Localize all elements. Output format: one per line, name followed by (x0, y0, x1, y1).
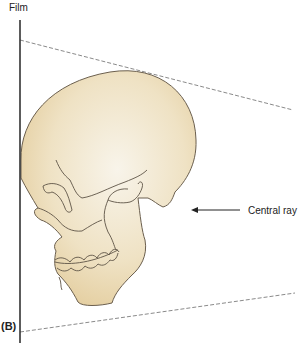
arrowhead-left-icon (191, 207, 198, 213)
central-ray-label: Central ray (248, 205, 297, 216)
panel-label: (B) (1, 320, 16, 332)
diagram-canvas (0, 0, 302, 345)
film-label: Film (9, 2, 28, 13)
skull-outline (21, 71, 196, 306)
beam-lower-edge (20, 293, 295, 332)
central-ray-arrow (191, 207, 240, 213)
